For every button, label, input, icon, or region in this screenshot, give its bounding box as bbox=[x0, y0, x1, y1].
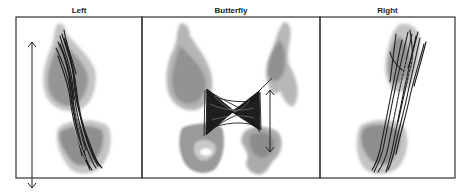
figure-canvas bbox=[0, 0, 470, 194]
left-vertical-arrow bbox=[28, 42, 36, 188]
right-panel bbox=[357, 24, 426, 174]
trajectory-figure: Left Butterfly Right bbox=[0, 0, 470, 194]
butterfly-density-upper-left bbox=[166, 24, 212, 111]
butterfly-density-lower-right bbox=[241, 127, 281, 175]
butterfly-density-lower-left bbox=[179, 124, 224, 173]
butterfly-density-upper-right bbox=[266, 22, 298, 106]
left-panel bbox=[28, 23, 111, 188]
butterfly-panel bbox=[166, 22, 297, 174]
